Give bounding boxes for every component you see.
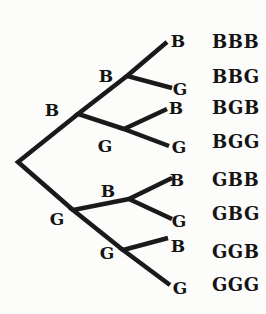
outcome-bbg: BBG [212, 68, 260, 86]
node-label-gb: B [101, 183, 115, 200]
node-label-g: G [50, 211, 65, 228]
outcome-gbg: GBG [212, 205, 260, 223]
leaf-label-gbb: B [170, 172, 184, 189]
branch-gb [129, 178, 172, 219]
leaf-label-bbg: G [173, 81, 188, 98]
branch-gg [123, 238, 170, 285]
branch-bb [127, 42, 172, 88]
leaf-label-bgb: B [169, 100, 183, 117]
node-label-bb: B [99, 68, 113, 85]
leaf-label-bgg: G [172, 139, 187, 156]
outcome-ggg: GGG [212, 276, 260, 294]
branch-bg [124, 109, 169, 146]
outcome-bgb: BGB [212, 99, 260, 117]
outcome-ggb: GGB [212, 243, 259, 261]
node-label-gg: G [100, 245, 115, 262]
outcome-gbb: GBB [212, 171, 259, 189]
leaf-label-gbg: G [172, 213, 187, 230]
leaf-label-bbb: B [171, 33, 185, 50]
outcome-bbb: BBB [212, 33, 259, 51]
node-label-b: B [45, 102, 59, 119]
outcome-bgg: BGG [212, 133, 260, 151]
leaf-label-ggg: G [173, 280, 188, 297]
branch-root [18, 114, 78, 210]
leaf-label-ggb: B [171, 238, 185, 255]
node-label-bg: G [98, 138, 113, 155]
tree-diagram: B G B G B G B G B G B G B G BBB BBG BGB … [0, 0, 266, 314]
